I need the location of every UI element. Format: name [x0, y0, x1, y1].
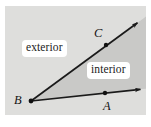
- point-label-C: C: [94, 27, 102, 40]
- point-A: [103, 91, 107, 95]
- point-label-B: B: [14, 94, 22, 107]
- exterior-region-label: exterior: [22, 40, 67, 57]
- point-B: [29, 99, 34, 104]
- point-C: [104, 43, 108, 47]
- point-label-A: A: [103, 100, 111, 113]
- angle-figure: exterior interior B A C: [0, 0, 151, 127]
- interior-region-label: interior: [87, 62, 130, 79]
